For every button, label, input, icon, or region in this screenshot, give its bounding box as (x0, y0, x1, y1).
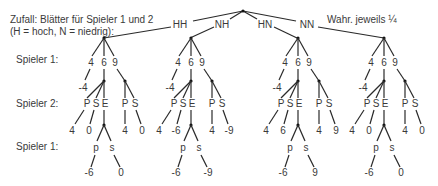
p2-choice-S: S (219, 98, 226, 110)
game-tree-diagram: Zufall: Blätter für Spieler 1 und 2 (H =… (0, 0, 438, 186)
payoff: 4 (263, 125, 269, 137)
p2-choice-P: P (402, 98, 409, 110)
chance-branch-hh: HH (173, 19, 187, 31)
p2-choice-P: P (209, 98, 216, 110)
payoff: 4 (69, 125, 75, 137)
fold-payoff: -4 (166, 82, 175, 94)
p1-choice-9: 9 (392, 57, 398, 69)
row-label-player2: Spieler 2: (16, 98, 58, 110)
p2-choice-E: E (382, 98, 389, 110)
p2-choice-S: S (373, 98, 380, 110)
p2-choice-P: P (316, 98, 323, 110)
p1-choice-9: 9 (199, 57, 205, 69)
final-payoff: -6 (85, 167, 94, 179)
fold-payoff: -4 (273, 82, 282, 94)
payoff: 4 (209, 125, 215, 137)
final-payoff: -6 (172, 167, 181, 179)
payoff: 0 (366, 125, 372, 137)
chance-branch-nn: NN (300, 19, 314, 31)
p1-final-choice-s: s (304, 142, 309, 154)
p1-final-choice-s: s (390, 142, 395, 154)
probability-note: Wahr. jeweils ¼ (327, 14, 397, 26)
p2-choice-P: P (278, 98, 285, 110)
p1-final-choice-p: p (180, 142, 186, 154)
p1-choice-9: 9 (306, 57, 312, 69)
payoff: 0 (419, 125, 425, 137)
final-payoff: 9 (312, 167, 318, 179)
payoff: 4 (122, 125, 128, 137)
p1-choice-9: 9 (112, 57, 118, 69)
p1-final-choice-s: s (197, 142, 202, 154)
p1-choice-4: 4 (282, 57, 288, 69)
p1-choice-4: 4 (88, 57, 94, 69)
payoff: 4 (156, 125, 162, 137)
payoff: 4 (349, 125, 355, 137)
final-payoff: 0 (118, 167, 124, 179)
p1-choice-6: 6 (101, 57, 107, 69)
p1-final-choice-p: p (93, 142, 99, 154)
chance-branch-nh: NH (215, 19, 229, 31)
p2-choice-P: P (171, 98, 178, 110)
p2-choice-E: E (296, 98, 303, 110)
p2-choice-S: S (132, 98, 139, 110)
payoff: -6 (172, 125, 181, 137)
final-payoff: -6 (365, 167, 374, 179)
p2-choice-E: E (189, 98, 196, 110)
payoff: -9 (225, 125, 234, 137)
p2-choice-S: S (180, 98, 187, 110)
p1-final-choice-s: s (110, 142, 115, 154)
p2-choice-P: P (364, 98, 371, 110)
p2-choice-P: P (122, 98, 129, 110)
chance-description-line1: Zufall: Blätter für Spieler 1 und 2 (10, 14, 153, 26)
payoff: 9 (333, 125, 339, 137)
p1-choice-6: 6 (381, 57, 387, 69)
payoff: 0 (139, 125, 145, 137)
row-label-player1-bottom: Spieler 1: (16, 141, 58, 153)
p2-choice-P: P (84, 98, 91, 110)
p2-choice-S: S (412, 98, 419, 110)
p1-choice-6: 6 (295, 57, 301, 69)
final-payoff: -6 (279, 167, 288, 179)
row-label-player1-top: Spieler 1: (16, 54, 58, 66)
payoff: 0 (86, 125, 92, 137)
chance-description-line2: (H = hoch, N = niedrig): (10, 26, 114, 38)
p1-choice-4: 4 (175, 57, 181, 69)
payoff: 6 (280, 125, 286, 137)
final-payoff: 0 (398, 167, 404, 179)
payoff: 4 (402, 125, 408, 137)
p2-choice-S: S (93, 98, 100, 110)
fold-payoff: -4 (359, 82, 368, 94)
p1-choice-4: 4 (368, 57, 374, 69)
p1-choice-6: 6 (188, 57, 194, 69)
p1-final-choice-p: p (373, 142, 379, 154)
p1-final-choice-p: p (287, 142, 293, 154)
p2-choice-E: E (102, 98, 109, 110)
p2-choice-S: S (326, 98, 333, 110)
payoff: 4 (316, 125, 322, 137)
final-payoff: -9 (204, 167, 213, 179)
chance-branch-hn: HN (258, 19, 272, 31)
p2-choice-S: S (287, 98, 294, 110)
fold-payoff: -4 (79, 82, 88, 94)
